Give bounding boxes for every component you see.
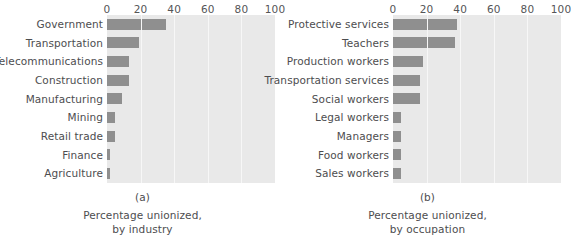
category-label: Manufacturing [26,90,103,109]
panel-b: 020406080100 Protective servicesTeachers… [285,0,570,244]
gridline [174,15,175,183]
caption-b: (b) Percentage unionized, by occupation [285,190,570,237]
x-tick-label: 40 [167,3,181,15]
bar [107,75,129,86]
bar-row [393,127,401,146]
bar [393,56,423,67]
bar [393,37,455,48]
bar [393,168,401,179]
bar-row [107,15,166,34]
bar-row [393,34,455,53]
bar [107,93,122,104]
category-label: Transportation services [264,71,389,90]
bar-row [393,90,420,109]
chart-a: 020406080100 GovernmentTransportationTel… [0,0,285,186]
caption-line1-a: Percentage unionized, [0,208,285,223]
category-label: Finance [62,146,103,165]
category-label: Government [37,15,103,34]
category-label: Teachers [342,34,389,53]
panel-tag-a: (a) [0,190,285,205]
caption-line2-b: by occupation [285,222,570,237]
bar-row [107,52,129,71]
bar-row [107,164,110,183]
x-tick-label: 60 [201,3,215,15]
bar-row [393,71,420,90]
bar-row [393,15,457,34]
gridline [494,15,495,183]
category-label: Managers [337,127,389,146]
y-axis-category-labels-b: Protective servicesTeachersProduction wo… [285,15,389,183]
bar-row [107,34,139,53]
x-tick-label: 100 [265,3,286,15]
bars-container-b [393,15,561,183]
category-label: Food workers [318,146,389,165]
category-label: Production workers [287,52,389,71]
caption-line2-a: by industry [0,222,285,237]
y-axis-category-labels-a: GovernmentTransportationTelecommunicatio… [0,15,103,183]
bar [107,37,139,48]
x-tick-label: 0 [104,3,111,15]
category-label: Social workers [312,90,389,109]
x-tick-label: 80 [521,3,535,15]
gridline [141,15,142,183]
bar-row [393,52,423,71]
bar-row [393,108,401,127]
caption-a: (a) Percentage unionized, by industry [0,190,285,237]
category-label: Transportation [26,34,103,53]
bars-container-a [107,15,275,183]
bar [107,131,115,142]
x-tick-label: 100 [551,3,571,15]
gridline [208,15,209,183]
gridline [460,15,461,183]
plot-area-b [393,15,561,183]
x-tick-label: 60 [487,3,501,15]
bar [107,56,129,67]
bar-row [107,127,115,146]
bar [107,149,110,160]
category-label: Construction [35,71,103,90]
x-tick-label: 40 [453,3,467,15]
bar-row [393,146,401,165]
gridline [241,15,242,183]
bar-row [107,146,110,165]
gridline [527,15,528,183]
bar [107,168,110,179]
category-label: Legal workers [315,108,389,127]
chart-b: 020406080100 Protective servicesTeachers… [285,0,570,186]
bar [393,131,401,142]
plot-area-a [107,15,275,183]
bar [393,93,420,104]
category-label: Retail trade [41,127,103,146]
bar-row [107,90,122,109]
category-label: Telecommunications [0,52,103,71]
category-label: Sales workers [315,164,389,183]
bar-row [107,71,129,90]
x-axis-tick-labels-b: 020406080100 [285,3,570,15]
x-tick-label: 80 [235,3,249,15]
bar [107,19,166,30]
caption-line1-b: Percentage unionized, [285,208,570,223]
bar [393,75,420,86]
bar [393,149,401,160]
x-tick-label: 20 [134,3,148,15]
x-tick-label: 20 [420,3,434,15]
category-label: Mining [68,108,103,127]
bar-row [393,164,401,183]
bar [393,112,401,123]
category-label: Protective services [288,15,389,34]
x-axis-tick-labels-a: 020406080100 [0,3,285,15]
x-tick-label: 0 [390,3,397,15]
panel-a: 020406080100 GovernmentTransportationTel… [0,0,285,244]
category-label: Agriculture [44,164,103,183]
gridline [427,15,428,183]
bar-row [107,108,115,127]
bar [107,112,115,123]
panel-tag-b: (b) [285,190,570,205]
bar [393,19,457,30]
